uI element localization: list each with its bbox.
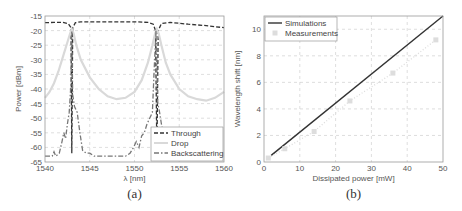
y-tick-label: -45: [30, 100, 42, 109]
x-tick-label: 1560: [215, 164, 233, 173]
y-tick-label: -30: [30, 56, 42, 65]
y-tick-label: -60: [30, 143, 42, 152]
y-tick-label: -50: [30, 114, 42, 123]
y-tick-label: -15: [30, 12, 42, 21]
x-tick-label: 1550: [126, 164, 144, 173]
x-axis-label-a: λ [nm]: [124, 174, 146, 183]
y-tick-label: -25: [30, 41, 42, 50]
caption-a: (a): [127, 186, 141, 201]
legend-b: SimulationsMeasurements: [265, 17, 338, 41]
measurement-marker: [312, 129, 317, 134]
y-tick-label: 4: [257, 105, 262, 114]
x-tick-label: 30: [367, 164, 376, 173]
y-axis-label-b: Wavelength shift [nm]: [233, 51, 242, 128]
y-tick-label: -65: [30, 158, 42, 167]
chart-b: 010203040500246810 Dissipated power [mW]…: [233, 16, 448, 201]
measurement-marker: [347, 98, 352, 103]
x-tick-label: 10: [295, 164, 304, 173]
x-tick-label: 40: [403, 164, 412, 173]
legend-a: ThroughDropBackscattering: [151, 127, 223, 161]
y-tick-label: -20: [30, 27, 42, 36]
legend-label: Backscattering: [171, 149, 223, 158]
measurement-marker: [266, 156, 271, 161]
x-tick-label: 0: [262, 164, 267, 173]
y-tick-label: 0: [257, 158, 262, 167]
y-tick-label: 6: [257, 78, 262, 87]
y-tick-label: 8: [257, 52, 262, 61]
caption-b: (b): [346, 186, 361, 201]
measurement-marker: [282, 146, 287, 151]
y-tick-label: -55: [30, 129, 42, 138]
y-tick-label: -40: [30, 85, 42, 94]
y-tick-label: 2: [257, 131, 262, 140]
chart-a: 15401545155015551560-15-20-25-30-35-40-4…: [14, 12, 233, 201]
legend-label: Simulations: [285, 19, 326, 28]
x-axis-label-b: Dissipated power [mW]: [312, 174, 394, 183]
measurement-marker: [433, 37, 438, 42]
x-tick-label: 1545: [81, 164, 99, 173]
y-axis-label-a: Power [dBm]: [14, 66, 23, 112]
figure: 15401545155015551560-15-20-25-30-35-40-4…: [0, 0, 462, 211]
legend-label: Through: [171, 129, 201, 138]
measurement-marker: [390, 71, 395, 76]
x-tick-label: 20: [331, 164, 340, 173]
y-tick-label: 10: [252, 25, 261, 34]
legend-label: Drop: [171, 139, 189, 148]
legend-label: Measurements: [285, 29, 338, 38]
x-tick-label: 50: [439, 164, 448, 173]
y-tick-label: -35: [30, 70, 42, 79]
x-tick-label: 1555: [170, 164, 188, 173]
